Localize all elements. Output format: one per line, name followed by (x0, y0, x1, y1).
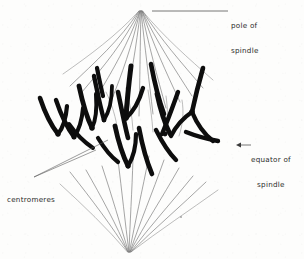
centromere (126, 164, 131, 169)
scan-speck (180, 216, 182, 218)
centromere (55, 131, 60, 136)
label-pole-of-spindle: pole of spindle (231, 5, 259, 64)
label-equator-line2: spindle (251, 181, 291, 189)
centromere (72, 135, 77, 140)
label-pole-line2: spindle (231, 47, 259, 55)
centromere (163, 132, 168, 137)
label-equator-line1: equator of (251, 156, 291, 164)
label-equator-of-spindle: equator of spindle (251, 139, 291, 198)
centromere (123, 115, 128, 120)
label-centromeres-text: centromeres (7, 196, 55, 204)
label-pole-line1: pole of (231, 22, 259, 30)
centromere (189, 109, 195, 115)
centromere (89, 125, 94, 130)
label-centromeres: centromeres (7, 179, 55, 213)
centromere (102, 118, 107, 123)
